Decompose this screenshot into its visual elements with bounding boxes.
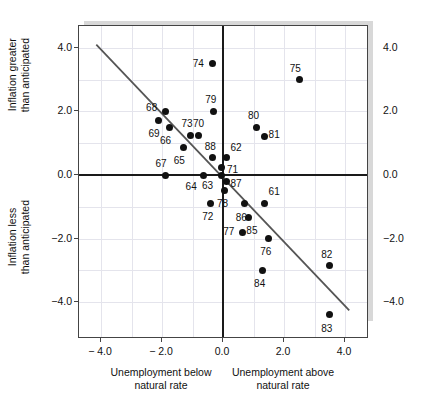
y-axis-title-upper: Inflation greater than anticipated: [6, 38, 32, 112]
data-point: [261, 133, 268, 140]
y-tick-label-right: 2.0: [383, 104, 398, 116]
y-tick-label-right: 0.0: [383, 168, 398, 180]
data-point-label: 70: [193, 119, 204, 129]
data-point: [241, 200, 248, 207]
data-point-label: 65: [174, 156, 185, 166]
data-point: [209, 154, 216, 161]
data-point-label: 80: [248, 111, 259, 121]
data-point-label: 81: [269, 130, 280, 140]
data-point-label: 78: [217, 199, 228, 209]
y-tick-label-left: −2.0: [51, 232, 72, 244]
y-tick-mark: [74, 47, 78, 48]
data-point: [162, 108, 169, 115]
y-axis-title-lower: Inflation less than anticipated: [6, 200, 32, 274]
y-tick-mark: [74, 174, 78, 175]
x-tick-label: − 4.0: [88, 345, 112, 357]
data-point-label: 84: [254, 279, 265, 289]
y-tick-mark: [74, 238, 78, 239]
y-tick-label-right: −4.0: [383, 295, 404, 307]
data-point-label: 79: [205, 95, 216, 105]
x-tick-label: − 2.0: [149, 345, 173, 357]
data-point: [223, 178, 230, 185]
x-tick-label: 2.0: [276, 345, 291, 357]
data-point: [218, 164, 225, 171]
data-point-label: 88: [205, 142, 216, 152]
data-point-label: 62: [230, 143, 241, 153]
data-point: [253, 124, 260, 131]
data-point: [195, 132, 202, 139]
data-point-label: 63: [202, 181, 213, 191]
x-tick-mark: [283, 338, 284, 342]
plot-right-shadow: [368, 21, 373, 321]
y-tick-mark: [74, 301, 78, 302]
x-tick-mark: [222, 338, 223, 342]
data-point: [259, 267, 266, 274]
data-point-label: 61: [269, 187, 280, 197]
x-tick-label: 0.0: [215, 345, 230, 357]
y-tick-label-right: 4.0: [383, 41, 398, 53]
data-point-label: 76: [260, 247, 271, 257]
y-tick-mark: [74, 110, 78, 111]
data-point-label: 68: [146, 103, 157, 113]
data-point-label: 74: [193, 59, 204, 69]
x-tick-mark: [344, 338, 345, 342]
data-point-label: 72: [202, 212, 213, 222]
data-point-label: 82: [321, 250, 332, 260]
data-point-label: 64: [186, 182, 197, 192]
data-point-label: 83: [321, 324, 332, 334]
data-point-label: 75: [290, 64, 301, 74]
plot-area: 6162636465666768697071727374757677787980…: [78, 25, 368, 338]
x-axis-title-right: Unemployment above natural rate: [232, 366, 334, 392]
y-tick-label-left: 2.0: [57, 104, 72, 116]
data-point: [166, 124, 173, 131]
data-point-label: 66: [160, 136, 171, 146]
x-tick-mark: [161, 338, 162, 342]
phillips-curve-scatter-figure: 6162636465666768697071727374757677787980…: [0, 0, 436, 405]
data-point: [200, 172, 207, 179]
y-tick-label-left: 4.0: [57, 41, 72, 53]
data-point-label: 67: [155, 159, 166, 169]
x-tick-label: 4.0: [337, 345, 352, 357]
x-axis-title-left: Unemployment below natural rate: [111, 366, 212, 392]
data-point-label: 85: [246, 226, 257, 236]
data-point: [261, 200, 268, 207]
data-point: [209, 60, 216, 67]
data-point-label: 71: [227, 165, 238, 175]
x-tick-mark: [100, 338, 101, 342]
data-point-label: 86: [236, 213, 247, 223]
y-tick-label-left: 0.0: [57, 168, 72, 180]
data-point: [296, 76, 303, 83]
data-point: [223, 154, 230, 161]
data-point-label: 73: [181, 119, 192, 129]
y-tick-label-left: −4.0: [51, 295, 72, 307]
data-point-label: 87: [230, 179, 241, 189]
data-point: [162, 172, 169, 179]
y-tick-label-right: −2.0: [383, 232, 404, 244]
data-point-label: 77: [223, 227, 234, 237]
data-point-label: 69: [148, 129, 159, 139]
